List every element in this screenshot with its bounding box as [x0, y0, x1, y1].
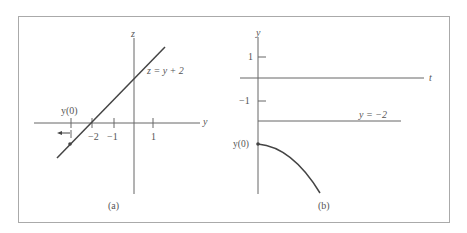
figure-canvas: z y z = y + 2 y(0) −2 −1 1 (a) y t 1 −1 …: [0, 0, 467, 233]
b-y-axis-label: y: [255, 27, 261, 38]
line-label: z = y + 2: [146, 65, 184, 76]
b-t-axis-label: t: [429, 72, 432, 83]
b-y0-label: y(0): [233, 139, 249, 150]
y-axis-label: y: [202, 116, 208, 127]
tick-label-minus-1: −1: [107, 131, 118, 142]
solution-curve: [258, 144, 320, 193]
panel-a: z y z = y + 2 y(0) −2 −1 1 (a): [34, 28, 208, 212]
asymptote-label: y = −2: [358, 109, 387, 120]
panel-b: y t 1 −1 y = −2 y(0) (b): [233, 27, 432, 212]
point-y0: [68, 142, 72, 146]
tick-label-1: 1: [151, 131, 156, 142]
b-tick-label-minus-1: −1: [239, 95, 250, 106]
z-axis-label: z: [130, 28, 135, 39]
arrow-left-icon: [57, 131, 70, 135]
caption-a: (a): [108, 200, 119, 212]
b-tick-label-1: 1: [248, 51, 253, 62]
y0-label: y(0): [61, 105, 78, 117]
caption-b: (b): [318, 200, 330, 212]
tick-label-minus-2: −2: [88, 131, 99, 142]
point-b-y0: [256, 142, 260, 146]
